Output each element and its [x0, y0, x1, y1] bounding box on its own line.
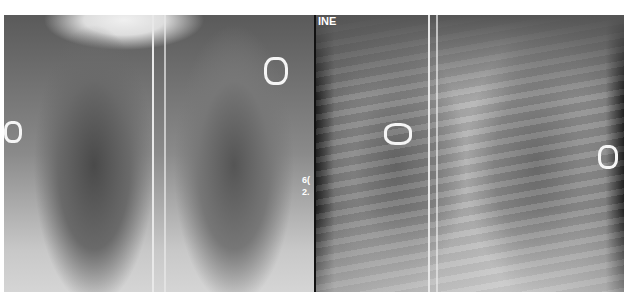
- xray-panel-left: 6( 2.: [4, 15, 316, 292]
- ecg-lead-clip: [598, 145, 618, 169]
- catheter-line: [164, 15, 166, 292]
- catheter-line: [152, 15, 154, 292]
- ecg-lead-clip: [384, 123, 412, 145]
- ecg-lead-clip: [264, 57, 288, 85]
- ecg-lead-clip: [4, 121, 22, 143]
- catheter-line: [428, 15, 430, 292]
- overlay-label: INE: [318, 15, 336, 27]
- catheter-line: [436, 15, 438, 292]
- xray-panel-right: INE: [316, 15, 624, 292]
- margin-text-2: 2.: [302, 187, 310, 197]
- margin-text-1: 6(: [302, 175, 310, 185]
